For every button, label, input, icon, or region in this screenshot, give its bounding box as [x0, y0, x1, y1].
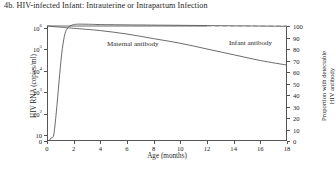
x-tick-label: 10 — [177, 145, 184, 152]
y-axis-right-label-line1: Proportion with detectable — [320, 51, 327, 121]
y-right-tick-label: 30 — [293, 103, 300, 110]
x-tick-label: 18 — [284, 145, 291, 152]
x-tick-mark — [127, 141, 128, 144]
x-tick-mark — [47, 141, 48, 144]
x-tick-label: 16 — [257, 145, 264, 152]
x-tick-label: 14 — [230, 145, 237, 152]
x-tick-mark — [74, 141, 75, 144]
y-right-tick-mark — [287, 118, 290, 119]
y-right-tick-label: 70 — [293, 57, 300, 64]
x-tick-label: 6 — [125, 145, 128, 152]
x-tick-label: 8 — [152, 145, 155, 152]
y-axis-left-label: HIV RNA (copies/ml) — [30, 54, 38, 118]
figure-title: 4b. HIV-infected Infant: Intrauterine or… — [4, 1, 208, 11]
y-right-tick-mark — [287, 49, 290, 50]
x-tick-mark — [287, 141, 288, 144]
x-tick-mark — [207, 141, 208, 144]
y-axis-right-label-line2: HIV antibody — [328, 67, 335, 103]
y-right-tick-label: 0 — [293, 138, 296, 145]
y-left-tick-label: 105 — [33, 46, 42, 53]
annotation-infant-antibody: Infant antibody — [229, 39, 272, 47]
y-right-tick-mark — [287, 38, 290, 39]
y-right-tick-mark — [287, 72, 290, 73]
y-right-tick-mark — [287, 61, 290, 62]
y-left-tick-label: 10 — [35, 132, 42, 139]
y-right-tick-mark — [287, 95, 290, 96]
y-left-tick-label: 106 — [33, 25, 42, 32]
x-tick-mark — [234, 141, 235, 144]
y-left-tick-label: 102 — [33, 110, 42, 117]
x-tick-label: 2 — [72, 145, 75, 152]
y-right-tick-mark — [287, 130, 290, 131]
x-tick-label: 12 — [204, 145, 211, 152]
y-right-tick-label: 60 — [293, 69, 300, 76]
x-tick-label: 0 — [45, 145, 48, 152]
y-right-tick-label: 10 — [293, 126, 300, 133]
y-right-tick-label: 80 — [293, 46, 300, 53]
y-right-tick-label: 40 — [293, 92, 300, 99]
plot-area: 010102103104105106 010203040506070809010… — [47, 26, 287, 141]
y-left-tick-label: 104 — [33, 67, 42, 74]
y-left-tick-label: 0 — [39, 138, 42, 145]
y-right-tick-mark — [287, 107, 290, 108]
y-right-tick-mark — [287, 26, 290, 27]
y-right-tick-label: 50 — [293, 80, 300, 87]
y-right-tick-label: 20 — [293, 115, 300, 122]
x-tick-mark — [180, 141, 181, 144]
annotation-maternal-antibody: Maternal antibody — [107, 40, 159, 48]
y-left-tick-label: 103 — [33, 89, 42, 96]
x-axis-label: Age (months) — [147, 152, 187, 160]
x-tick-mark — [100, 141, 101, 144]
y-axis-right-label: Proportion with detectable HIV antibody — [320, 51, 336, 121]
y-right-tick-mark — [287, 84, 290, 85]
x-tick-label: 4 — [99, 145, 102, 152]
x-tick-mark — [260, 141, 261, 144]
y-right-tick-label: 100 — [293, 23, 303, 30]
x-tick-mark — [154, 141, 155, 144]
y-right-tick-label: 90 — [293, 34, 300, 41]
